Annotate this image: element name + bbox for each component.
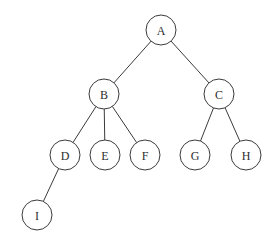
- edges-group: [43, 41, 240, 201]
- tree-edge-a-c: [171, 41, 209, 83]
- tree-node-i[interactable]: I: [22, 200, 52, 230]
- node-circle-d[interactable]: [50, 140, 80, 170]
- tree-node-a[interactable]: A: [146, 15, 176, 45]
- node-circle-c[interactable]: [204, 79, 234, 109]
- tree-edge-b-f: [112, 106, 136, 142]
- nodes-group: ABCDEFGHI: [22, 15, 261, 230]
- tree-node-g[interactable]: G: [180, 140, 210, 170]
- tree-node-f[interactable]: F: [130, 140, 160, 170]
- tree-edge-d-i: [43, 169, 58, 202]
- tree-diagram: ABCDEFGHI: [0, 0, 280, 249]
- tree-edge-c-g: [200, 108, 213, 141]
- tree-node-e[interactable]: E: [90, 140, 120, 170]
- node-circle-h[interactable]: [231, 140, 261, 170]
- node-circle-e[interactable]: [90, 140, 120, 170]
- node-circle-g[interactable]: [180, 140, 210, 170]
- tree-edge-b-e: [104, 109, 105, 140]
- node-circle-b[interactable]: [89, 79, 119, 109]
- node-circle-i[interactable]: [22, 200, 52, 230]
- tree-node-b[interactable]: B: [89, 79, 119, 109]
- tree-node-h[interactable]: H: [231, 140, 261, 170]
- node-circle-a[interactable]: [146, 15, 176, 45]
- tree-node-c[interactable]: C: [204, 79, 234, 109]
- tree-edge-a-b: [114, 41, 151, 83]
- node-circle-f[interactable]: [130, 140, 160, 170]
- tree-node-d[interactable]: D: [50, 140, 80, 170]
- tree-edge-c-h: [225, 108, 240, 142]
- tree-edge-b-d: [73, 107, 96, 143]
